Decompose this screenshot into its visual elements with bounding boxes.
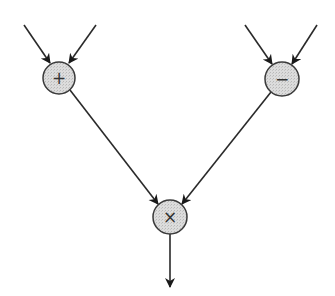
operator-add-icon: + xyxy=(52,68,66,88)
diagram-canvas: +−× xyxy=(0,0,335,296)
edge-arrow-in-sub-2 xyxy=(292,25,317,64)
dataflow-diagram: +−× xyxy=(0,0,335,296)
edge-arrow-in-add-1 xyxy=(24,25,50,63)
operator-sub-icon: − xyxy=(275,69,289,89)
operator-mul-icon: × xyxy=(163,207,177,227)
node-mul: × xyxy=(153,200,187,234)
edge-arrow-in-sub-1 xyxy=(245,25,272,64)
edge-arrow-in-add-2 xyxy=(69,25,96,63)
edge-arrow-sub-mul xyxy=(182,92,271,204)
nodes: +−× xyxy=(43,62,299,234)
node-add: + xyxy=(43,62,75,94)
edge-arrow-add-mul xyxy=(70,90,158,204)
node-sub: − xyxy=(265,62,299,96)
